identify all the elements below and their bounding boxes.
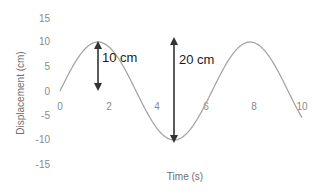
y-tick: 0: [44, 86, 50, 97]
x-tick: 2: [106, 101, 112, 112]
x-axis-ticks: 0 2 4 6 8 10: [57, 101, 308, 112]
y-tick: -10: [36, 134, 51, 145]
y-tick: 10: [39, 36, 51, 47]
y-tick: -5: [41, 110, 50, 121]
x-tick: 0: [57, 101, 63, 112]
y-tick: 15: [39, 13, 51, 24]
x-tick: 4: [154, 101, 160, 112]
displacement-time-chart: 15 10 5 0 -5 -10 -15 Displacement (cm) 0…: [0, 0, 322, 191]
amplitude-label: 10 cm: [102, 50, 137, 65]
peak-to-trough-label: 20 cm: [179, 52, 214, 67]
x-tick: 8: [251, 101, 257, 112]
y-axis-title: Displacement (cm): [15, 51, 26, 134]
y-tick: 5: [44, 61, 50, 72]
y-axis-ticks: 15 10 5 0 -5 -10 -15: [36, 13, 51, 170]
x-axis-title: Time (s): [167, 171, 203, 182]
y-tick: -15: [36, 159, 51, 170]
